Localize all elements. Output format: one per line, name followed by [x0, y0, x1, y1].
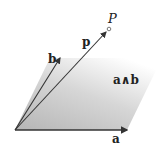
label-a: a	[112, 133, 120, 145]
label-P: P	[108, 12, 117, 25]
bivector-parallelogram	[15, 58, 159, 130]
point-P	[107, 27, 111, 31]
label-wedge: a∧b	[113, 74, 139, 86]
wedge-product-diagram: P p b a∧b a	[0, 0, 159, 151]
label-b: b	[48, 53, 56, 65]
label-p: p	[82, 36, 90, 48]
